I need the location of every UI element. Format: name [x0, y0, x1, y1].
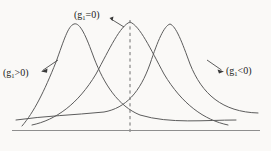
label-right-subscript: 1 [234, 70, 237, 77]
label-left-subscript: 1 [11, 72, 14, 79]
label-positive-skew: (g1>0) [3, 68, 29, 78]
label-symmetric: (g1=0) [74, 10, 100, 20]
label-right-relation: <0 [238, 65, 249, 76]
label-left-close: ) [25, 67, 28, 78]
curve-positive-skew [22, 24, 236, 126]
leader-middle [110, 17, 125, 28]
skewness-figure: (g1>0) (g1=0) (g1<0) [0, 0, 271, 151]
label-mid-relation: =0 [86, 9, 97, 20]
label-mid-subscript: 1 [82, 14, 85, 21]
leader-left [41, 60, 58, 73]
label-negative-skew: (g1<0) [226, 66, 252, 76]
label-right-close: ) [248, 65, 251, 76]
label-mid-close: ) [96, 9, 99, 20]
label-left-relation: >0 [15, 67, 26, 78]
leader-right [207, 60, 224, 74]
